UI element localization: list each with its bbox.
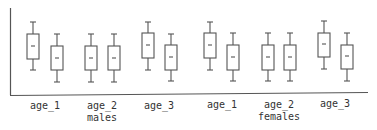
box bbox=[204, 22, 216, 70]
group-label: females bbox=[258, 111, 300, 122]
box bbox=[262, 33, 274, 81]
tick-label: age_1 bbox=[30, 100, 60, 112]
axes bbox=[10, 8, 368, 96]
tick-label: age_3 bbox=[144, 100, 174, 112]
box bbox=[227, 33, 239, 81]
box bbox=[341, 33, 353, 81]
box bbox=[85, 34, 97, 82]
group-label: males bbox=[87, 112, 117, 123]
box-plot-chart: age_1 age_2 males age_3 age_1 age_2 fema… bbox=[0, 0, 377, 130]
x-axis bbox=[10, 93, 368, 96]
box bbox=[142, 22, 154, 70]
box-body bbox=[318, 33, 330, 57]
box bbox=[108, 34, 120, 82]
box bbox=[27, 22, 39, 70]
box-body bbox=[341, 45, 353, 69]
box bbox=[318, 21, 330, 69]
tick-label: age_3 bbox=[320, 98, 350, 110]
box bbox=[284, 33, 296, 81]
tick-label: age_2 bbox=[264, 99, 294, 111]
tick-label: age_1 bbox=[207, 99, 237, 111]
tick-labels: age_1 age_2 males age_3 age_1 age_2 fema… bbox=[30, 98, 350, 123]
box bbox=[51, 34, 63, 82]
box bbox=[165, 34, 177, 81]
tick-label: age_2 bbox=[87, 100, 117, 112]
boxes bbox=[27, 21, 353, 82]
